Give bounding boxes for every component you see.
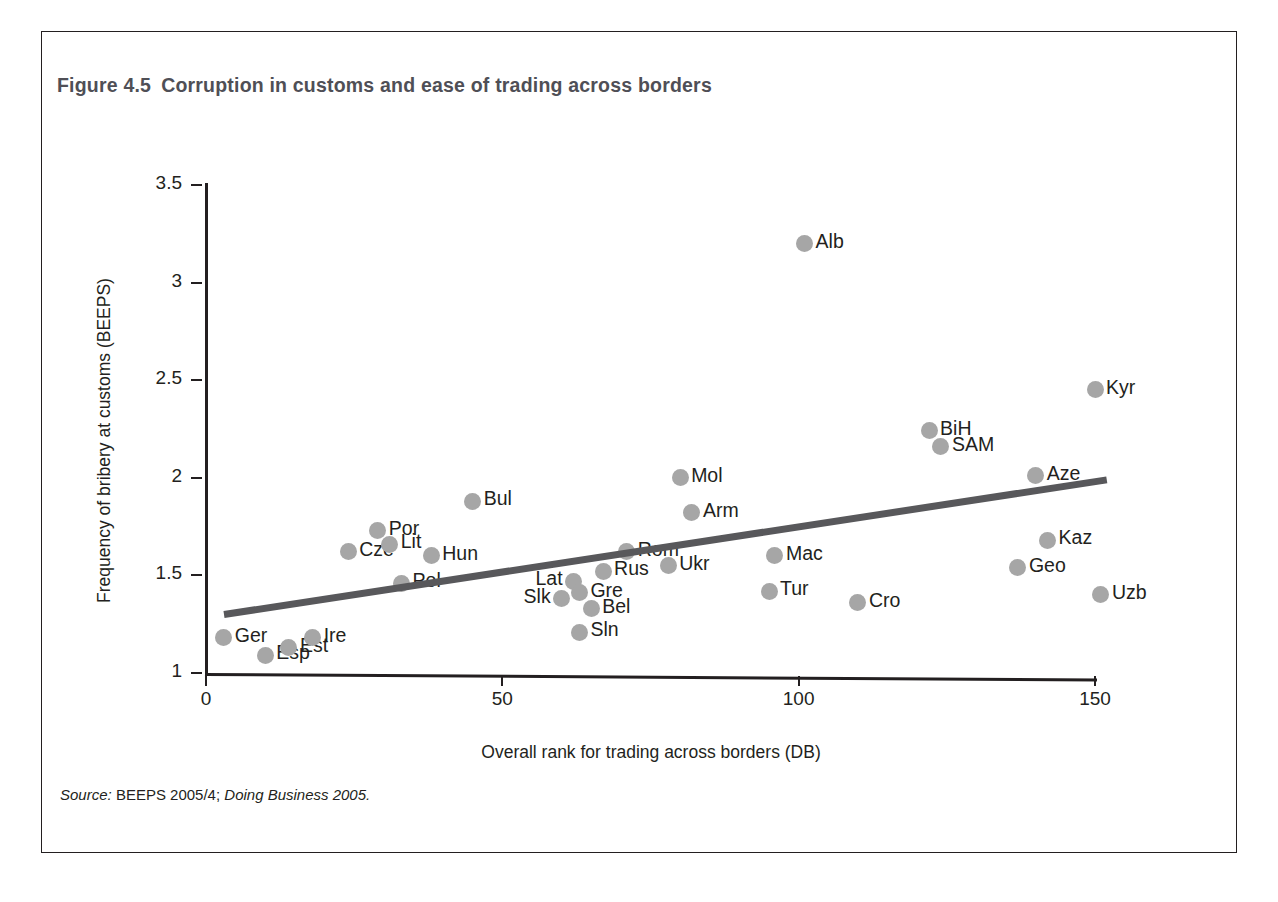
point-label-alb: Alb — [816, 230, 844, 253]
y-tick-label-1: 1 — [136, 660, 182, 682]
y-tick-2.5 — [191, 379, 202, 381]
point-label-ger: Ger — [235, 624, 268, 647]
data-point-geo — [1009, 559, 1026, 576]
x-tick-label-50: 50 — [472, 688, 532, 710]
point-label-sam: SAM — [952, 433, 994, 456]
data-point-mac — [766, 547, 783, 564]
x-tick-100 — [798, 676, 800, 686]
y-tick-3.5 — [191, 184, 202, 186]
data-point-sln — [571, 624, 588, 641]
data-point-esp — [257, 647, 274, 664]
x-tick-50 — [501, 676, 503, 686]
point-label-lat: Lat — [535, 567, 562, 590]
point-label-arm: Arm — [703, 499, 739, 522]
x-axis-title: Overall rank for trading across borders … — [206, 742, 1096, 763]
data-point-ukr — [660, 557, 677, 574]
point-label-lit: Lit — [401, 530, 422, 553]
data-point-aze — [1027, 467, 1044, 484]
data-point-mol — [672, 469, 689, 486]
data-point-slk — [553, 590, 570, 607]
data-point-hun — [423, 547, 440, 564]
data-point-tur — [761, 583, 778, 600]
y-axis-line — [205, 183, 208, 675]
x-axis-line — [205, 673, 1097, 681]
data-point-kyr — [1087, 381, 1104, 398]
data-point-uzb — [1092, 586, 1109, 603]
data-point-kaz — [1039, 532, 1056, 549]
source-prefix: Source: — [60, 786, 112, 803]
x-tick-150 — [1094, 676, 1096, 686]
data-point-cro — [849, 594, 866, 611]
y-tick-label-1.5: 1.5 — [136, 562, 182, 584]
y-tick-label-2.5: 2.5 — [136, 367, 182, 389]
source-body: BEEPS 2005/4; — [116, 786, 220, 803]
data-point-gre — [571, 584, 588, 601]
point-label-mac: Mac — [786, 542, 823, 565]
data-point-alb — [796, 235, 813, 252]
y-tick-1.5 — [191, 574, 202, 576]
y-tick-3 — [191, 282, 202, 284]
point-label-bel: Bel — [602, 595, 630, 618]
data-point-cze — [340, 543, 357, 560]
point-label-kyr: Kyr — [1106, 376, 1135, 399]
source-citation: Doing Business 2005. — [224, 786, 370, 803]
point-label-ire: Ire — [324, 624, 347, 647]
x-tick-label-150: 150 — [1065, 688, 1125, 710]
data-point-ger — [215, 629, 232, 646]
point-label-ukr: Ukr — [679, 552, 709, 575]
data-point-bih — [921, 422, 938, 439]
x-tick-label-100: 100 — [769, 688, 829, 710]
data-point-rus — [595, 563, 612, 580]
point-label-hun: Hun — [442, 542, 478, 565]
figure-page: Figure 4.5Corruption in customs and ease… — [0, 0, 1278, 902]
data-point-arm — [683, 504, 700, 521]
data-point-bel — [583, 600, 600, 617]
y-tick-label-3: 3 — [136, 270, 182, 292]
y-tick-2 — [191, 477, 202, 479]
y-tick-1 — [191, 672, 202, 674]
point-label-kaz: Kaz — [1059, 526, 1093, 549]
source-note: Source: BEEPS 2005/4; Doing Business 200… — [60, 786, 370, 803]
y-axis-title: Frequency of bribery at customs (BEEPS) — [94, 231, 115, 651]
point-label-mol: Mol — [691, 464, 722, 487]
x-tick-0 — [205, 676, 207, 686]
y-tick-label-3.5: 3.5 — [136, 172, 182, 194]
data-point-bul — [464, 493, 481, 510]
point-label-geo: Geo — [1029, 554, 1066, 577]
scatter-plot: 11.522.533.5 050100150 GerEspEstIreCzePo… — [0, 0, 1278, 902]
x-tick-label-0: 0 — [176, 688, 236, 710]
point-label-sln: Sln — [590, 618, 618, 641]
data-point-sam — [932, 438, 949, 455]
y-tick-label-2: 2 — [136, 465, 182, 487]
point-label-cro: Cro — [869, 589, 900, 612]
point-label-uzb: Uzb — [1112, 581, 1147, 604]
point-label-tur: Tur — [780, 577, 809, 600]
point-label-bul: Bul — [484, 487, 512, 510]
data-point-lit — [381, 536, 398, 553]
